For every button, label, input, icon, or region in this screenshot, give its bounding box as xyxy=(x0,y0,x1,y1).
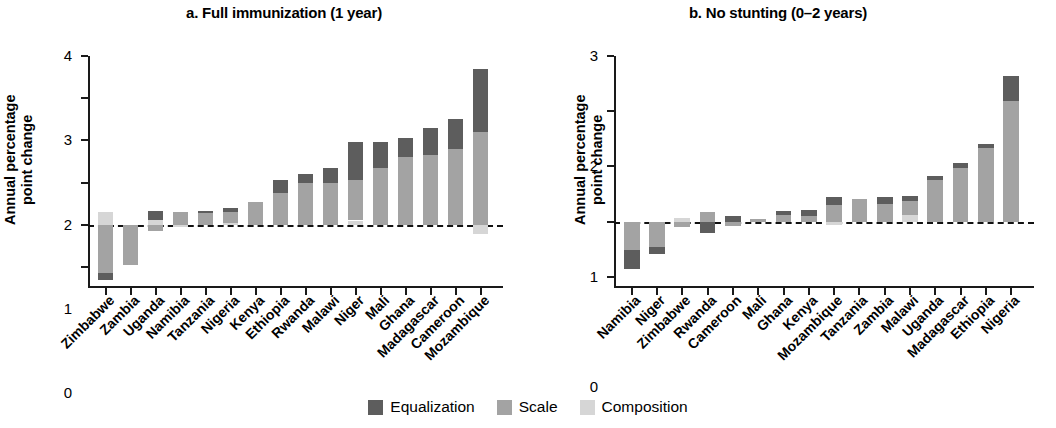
panel-a-y-axis-title: Annual percentage point change xyxy=(2,60,36,260)
bar-segment-scale xyxy=(373,168,389,225)
figure-root: a. Full immunization (1 year) Annual per… xyxy=(0,0,1056,428)
y-tick: 4 xyxy=(81,55,88,57)
bar-segment-composition xyxy=(348,221,364,225)
bar-column[interactable] xyxy=(123,56,139,288)
bar-column[interactable] xyxy=(953,56,969,288)
legend-swatch-scale xyxy=(497,400,512,415)
bar-column[interactable] xyxy=(725,56,741,288)
y-tick-label: 3 xyxy=(64,131,72,148)
bar-column[interactable] xyxy=(273,56,289,288)
bar-column[interactable] xyxy=(877,56,893,288)
x-tick xyxy=(155,288,157,295)
bar-segment-scale xyxy=(423,155,439,225)
bar-column[interactable] xyxy=(801,56,817,288)
bar-segment-scale xyxy=(953,168,969,222)
y-tick: −1 xyxy=(607,276,614,278)
bar-segment-composition xyxy=(826,222,842,225)
panel-b-title: b. No stunting (0–2 years) xyxy=(500,4,1026,21)
bar-segment-equalization xyxy=(826,197,842,205)
panel-b-bars xyxy=(614,56,1034,288)
bar-segment-scale xyxy=(323,183,339,225)
bar-column[interactable] xyxy=(148,56,164,288)
bar-column[interactable] xyxy=(423,56,439,288)
legend-item-scale[interactable]: Scale xyxy=(497,398,558,416)
legend-swatch-equalization xyxy=(368,400,383,415)
bar-column[interactable] xyxy=(173,56,189,288)
bar-segment-scale xyxy=(123,225,139,265)
bar-segment-equalization xyxy=(448,119,464,149)
x-tick xyxy=(960,288,962,295)
bar-segment-equalization xyxy=(148,211,164,219)
x-tick xyxy=(305,288,307,295)
x-tick xyxy=(934,288,936,295)
bar-column[interactable] xyxy=(826,56,842,288)
bar-column[interactable] xyxy=(902,56,918,288)
bar-segment-scale xyxy=(398,157,414,224)
bar-segment-equalization xyxy=(877,197,893,204)
bar-segment-equalization xyxy=(98,273,114,279)
bar-column[interactable] xyxy=(448,56,464,288)
bar-segment-scale xyxy=(198,213,214,225)
bar-column[interactable] xyxy=(248,56,264,288)
bar-column[interactable] xyxy=(649,56,665,288)
bar-segment-equalization xyxy=(725,216,741,222)
x-tick xyxy=(707,288,709,295)
bar-segment-scale xyxy=(298,183,314,225)
bar-segment-scale xyxy=(877,204,893,222)
bar-column[interactable] xyxy=(373,56,389,288)
bar-segment-equalization xyxy=(902,196,918,202)
x-tick xyxy=(732,288,734,295)
bar-column[interactable] xyxy=(298,56,314,288)
bar-column[interactable] xyxy=(776,56,792,288)
bar-segment-equalization xyxy=(1003,76,1019,101)
bar-column[interactable] xyxy=(1003,56,1019,288)
y-tick-label: 2 xyxy=(590,157,598,174)
bar-segment-scale xyxy=(801,216,817,222)
legend-item-equalization[interactable]: Equalization xyxy=(368,398,474,416)
bar-segment-scale xyxy=(1003,101,1019,221)
bar-column[interactable] xyxy=(323,56,339,288)
x-tick xyxy=(430,288,432,295)
bar-segment-scale xyxy=(649,222,665,247)
x-tick xyxy=(858,288,860,295)
y-axis-title-line2: point change xyxy=(19,115,35,205)
bar-segment-scale xyxy=(852,199,868,222)
bar-column[interactable] xyxy=(624,56,640,288)
bar-segment-scale xyxy=(902,201,918,215)
x-tick xyxy=(631,288,633,295)
x-tick xyxy=(130,288,132,295)
bar-column[interactable] xyxy=(978,56,994,288)
bar-column[interactable] xyxy=(674,56,690,288)
bar-segment-scale xyxy=(248,202,264,225)
bar-column[interactable] xyxy=(348,56,364,288)
y-tick: 0 xyxy=(81,224,88,226)
x-tick xyxy=(1010,288,1012,295)
y-tick: 3 xyxy=(607,55,614,57)
x-tick xyxy=(280,288,282,295)
x-tick xyxy=(180,288,182,295)
bar-column[interactable] xyxy=(98,56,114,288)
bar-segment-equalization xyxy=(649,247,665,254)
x-tick xyxy=(205,288,207,295)
bar-column[interactable] xyxy=(852,56,868,288)
bar-segment-equalization xyxy=(323,168,339,183)
bar-column[interactable] xyxy=(927,56,943,288)
bar-column[interactable] xyxy=(700,56,716,288)
bar-segment-equalization xyxy=(273,180,289,193)
bar-column[interactable] xyxy=(473,56,489,288)
bar-column[interactable] xyxy=(198,56,214,288)
bar-column[interactable] xyxy=(398,56,414,288)
bar-column[interactable] xyxy=(223,56,239,288)
x-tick xyxy=(355,288,357,295)
y-axis-title-line1: Annual percentage xyxy=(2,95,18,226)
bar-segment-scale xyxy=(473,132,489,225)
bar-column[interactable] xyxy=(750,56,766,288)
bar-segment-scale xyxy=(348,180,364,220)
bar-segment-equalization xyxy=(801,210,817,217)
x-tick xyxy=(330,288,332,295)
legend-item-composition[interactable]: Composition xyxy=(580,398,688,416)
y-tick-label: 3 xyxy=(590,47,598,64)
y-tick: 2 xyxy=(81,139,88,141)
x-tick xyxy=(480,288,482,295)
bar-segment-composition xyxy=(902,215,918,222)
